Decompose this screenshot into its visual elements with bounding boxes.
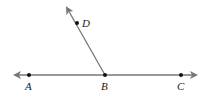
- point-a: [27, 73, 31, 77]
- label-d: D: [81, 17, 90, 29]
- label-c: C: [177, 80, 185, 92]
- geometry-diagram: A B C D: [0, 0, 207, 97]
- label-b: B: [101, 80, 108, 92]
- point-d: [75, 21, 79, 25]
- label-a: A: [24, 80, 32, 92]
- diagram-canvas: A B C D: [0, 0, 207, 97]
- point-b: [103, 73, 107, 77]
- point-c: [179, 73, 183, 77]
